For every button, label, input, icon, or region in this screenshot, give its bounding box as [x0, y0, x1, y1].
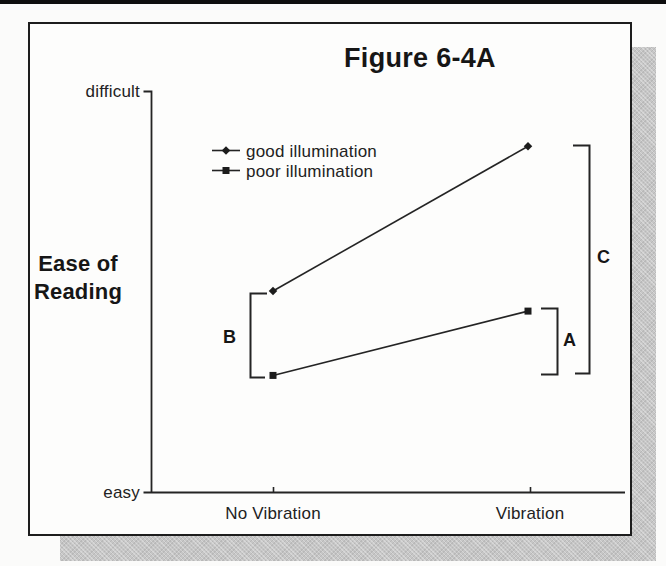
figure-title: Figure 6-4A	[332, 43, 508, 74]
y-axis-top-label: difficult	[58, 82, 140, 102]
bracket-c-label: C	[597, 247, 610, 268]
series-poor-illumination	[270, 308, 532, 379]
legend-label-poor-illumination: poor illumination	[246, 162, 373, 182]
y-axis-bottom-label: easy	[70, 483, 140, 503]
y-axis-title: Ease of Reading	[16, 250, 140, 306]
bracket-a	[541, 309, 558, 375]
series-line-square	[273, 311, 528, 375]
diamond-marker	[524, 142, 532, 150]
square-marker	[525, 308, 532, 315]
bracket-b	[251, 294, 268, 378]
bracket-b-label: B	[223, 327, 236, 348]
y-axis-title-line1: Ease of	[16, 250, 140, 278]
y-axis-title-line2: Reading	[16, 278, 140, 306]
legend-label-good-illumination: good illumination	[246, 142, 377, 162]
x-category-no-vibration: No Vibration	[203, 504, 343, 524]
y-axis	[144, 92, 152, 493]
bracket-a-label: A	[563, 330, 576, 351]
legend-diamond-icon	[222, 146, 230, 154]
diamond-marker	[269, 287, 277, 295]
square-marker	[270, 372, 277, 379]
x-category-vibration: Vibration	[460, 504, 600, 524]
legend-square-icon	[223, 167, 230, 174]
